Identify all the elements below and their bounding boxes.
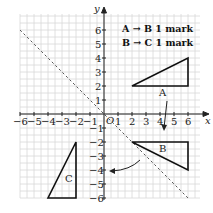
x-tick-label: 6: [185, 116, 191, 127]
x-tick-label: −6: [13, 116, 28, 127]
triangle-c-label: C: [65, 173, 73, 184]
legend-line-1: A → B 1 mark: [121, 23, 193, 34]
triangle-b-label: B: [159, 143, 166, 154]
y-tick-label: −1: [89, 123, 104, 134]
x-tick-label: −4: [41, 116, 56, 127]
y-axis-arrow-icon: [102, 7, 107, 13]
y-tick-label: 1: [95, 95, 101, 106]
x-tick-label: 2: [129, 116, 135, 127]
y-tick-label: −2: [89, 137, 104, 148]
y-tick-label: −4: [89, 165, 104, 176]
arrow-head-icon: [161, 124, 167, 131]
arrow-head-icon: [109, 168, 115, 174]
y-tick-label: −3: [89, 151, 104, 162]
triangle-a-label: A: [158, 87, 167, 98]
coordinate-diagram: −6−5−4−3−2−1123456654321−1−2−3−4−5−6 x y…: [0, 0, 213, 213]
origin-label: O: [106, 115, 114, 126]
y-tick-label: 2: [95, 81, 101, 92]
y-tick-label: 6: [95, 25, 101, 36]
y-tick-label: −5: [89, 179, 104, 190]
x-tick-label: −3: [55, 116, 70, 127]
y-tick-label: 5: [95, 39, 101, 50]
arrow-b-to-c: [109, 160, 140, 174]
x-tick-label: 3: [143, 116, 149, 127]
y-tick-label: −6: [89, 193, 104, 204]
y-tick-label: 3: [95, 67, 101, 78]
x-tick-label: −2: [69, 116, 84, 127]
legend-line-2: B → C 1 mark: [122, 37, 194, 48]
y-axis-label: y: [93, 3, 100, 14]
x-tick-label: 5: [171, 116, 177, 127]
x-axis-label: x: [205, 115, 211, 126]
x-tick-label: −5: [27, 116, 42, 127]
y-tick-label: 4: [95, 53, 101, 64]
